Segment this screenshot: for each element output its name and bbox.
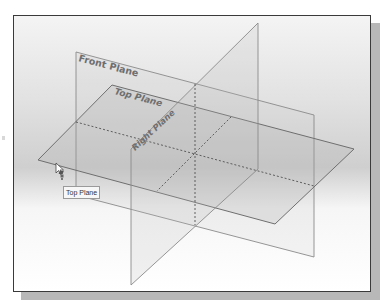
right-plane[interactable] bbox=[131, 23, 258, 285]
graphics-viewport[interactable]: Front Plane Top Plane Right Plane Top Pl… bbox=[13, 15, 371, 292]
select-cursor-icon bbox=[55, 162, 71, 182]
planes-scene: Front Plane Top Plane Right Plane bbox=[14, 16, 370, 291]
tooltip: Top Plane bbox=[63, 186, 100, 199]
stray-mark bbox=[2, 136, 5, 140]
